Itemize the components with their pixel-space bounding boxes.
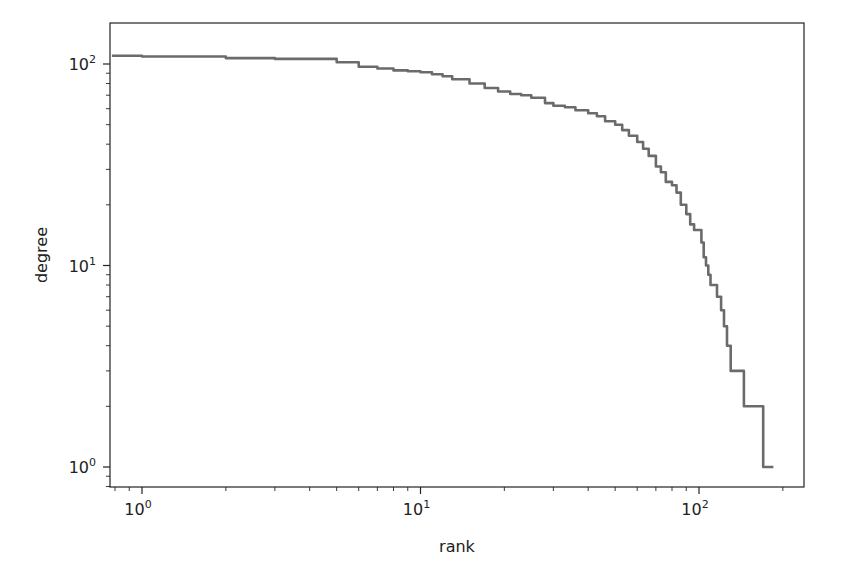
degree-rank-chart: 100101102 100101102 rank degree [0, 0, 841, 584]
x-axis-label: rank [439, 537, 476, 556]
y-axis-label: degree [32, 227, 51, 283]
chart-background [0, 0, 841, 584]
